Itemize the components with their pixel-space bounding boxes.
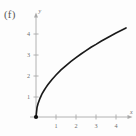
x-axis-label: x [129, 109, 133, 115]
origin-point-marker [34, 115, 38, 119]
figure-panel: (f) y x 1 2 3 4 1 2 3 4 [0, 0, 136, 136]
x-tick-label: 2 [74, 122, 77, 129]
plot-area: y x 1 2 3 4 1 2 3 4 [0, 0, 136, 136]
x-tick-label: 1 [54, 122, 57, 129]
x-tick-label: 3 [94, 122, 97, 129]
y-tick-label: 4 [27, 30, 30, 37]
y-tick-label: 1 [27, 93, 30, 100]
y-tick-label: 3 [27, 51, 30, 58]
y-axis-label: y [38, 8, 42, 14]
x-tick-label: 4 [114, 122, 117, 129]
y-tick-label: 2 [27, 72, 30, 79]
curve-line [36, 28, 126, 117]
y-axis-arrow-icon [34, 13, 38, 18]
x-axis-arrow-icon [128, 115, 133, 119]
